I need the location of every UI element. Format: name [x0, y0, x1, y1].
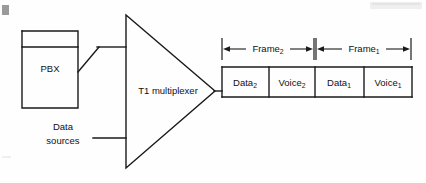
- frame-2-label-subscript: 2: [280, 48, 284, 55]
- pbx-node: PBX: [22, 31, 78, 108]
- slot-1-label-subscript: 2: [302, 82, 306, 89]
- frame-1-left-arrow-head: [317, 46, 324, 52]
- multiplexer-node: T1 multiplexer: [126, 15, 215, 168]
- frame-2-label: Frame2: [252, 43, 283, 55]
- frame-1-label-text: Frame: [348, 43, 375, 54]
- slot-3-label-subscript: 1: [398, 82, 402, 89]
- slot-2-label-text: Data: [327, 77, 348, 88]
- pbx-diagonal-connector: [78, 47, 99, 72]
- pbx-box-top: [22, 31, 78, 47]
- frame-2-right-arrow-head: [306, 46, 313, 52]
- t1-multiplexer-figure: PBX Data sources T1 multiplexer: [0, 0, 426, 183]
- data-sources-node: Data sources: [46, 121, 80, 146]
- slot-2-label: Data1: [327, 77, 351, 89]
- frame-2-span: Frame2: [222, 38, 314, 60]
- slot-1-label-text: Voice: [278, 77, 301, 88]
- frame-slot-row: Data2 Voice2 Data1 Voice1: [222, 67, 412, 97]
- slot-3-label: Voice1: [374, 77, 401, 89]
- frame-1-right-arrow-head: [403, 46, 410, 52]
- frame-2-left-arrow-head: [223, 46, 230, 52]
- data-sources-label-line2: sources: [46, 135, 80, 146]
- multiplexer-label: T1 multiplexer: [138, 85, 198, 96]
- slot-2-label-subscript: 1: [347, 82, 351, 89]
- slot-0-label-subscript: 2: [253, 82, 257, 89]
- frame-1-label-subscript: 1: [376, 48, 380, 55]
- data-sources-label-line1: Data: [53, 121, 74, 132]
- frame-1-span: Frame1: [316, 38, 411, 60]
- slot-0-label-text: Data: [233, 77, 254, 88]
- frame-1-label: Frame1: [348, 43, 379, 55]
- diagram-canvas: PBX Data sources T1 multiplexer: [0, 0, 426, 183]
- slot-0-label: Data2: [233, 77, 257, 89]
- pbx-label: PBX: [40, 63, 60, 74]
- slot-1-label: Voice2: [278, 77, 305, 89]
- slot-3-label-text: Voice: [374, 77, 397, 88]
- frame-2-label-text: Frame: [252, 43, 279, 54]
